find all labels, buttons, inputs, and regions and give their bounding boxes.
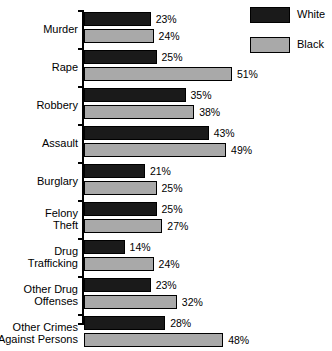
bar-row-white: 14% [84,240,332,254]
bar-white [84,50,157,64]
bar-row-black: 38% [84,105,332,119]
bar-row-white: 25% [84,50,332,64]
bar-row-white: 43% [84,126,332,140]
bar-black [84,143,226,157]
bar-value-white: 43% [214,128,235,139]
group-bars: 23% 24% [84,12,332,46]
bar-value-white: 23% [156,280,177,291]
bar-black [84,219,162,233]
category-label: Other Drug Offenses [0,283,78,307]
group-bars: 35% 38% [84,88,332,122]
bar-black [84,67,232,81]
bar-value-black: 49% [231,145,252,156]
category-label: Drug Trafficking [0,245,78,269]
category-label: Burglary [0,175,78,187]
bar-white [84,88,186,102]
bar-white [84,164,145,178]
bar-row-black: 48% [84,333,332,347]
bar-row-black: 24% [84,257,332,271]
bar-value-white: 28% [170,318,191,329]
bar-value-black: 51% [237,69,258,80]
bar-black [84,257,154,271]
bar-row-black: 32% [84,295,332,309]
group-bars: 23% 32% [84,278,332,312]
bar-value-white: 21% [150,166,171,177]
bar-row-white: 35% [84,88,332,102]
group-bars: 14% 24% [84,240,332,274]
bar-row-black: 27% [84,219,332,233]
bar-white [84,202,157,216]
bar-black [84,105,194,119]
bar-black [84,295,177,309]
bar-black [84,29,154,43]
bar-value-black: 48% [228,335,249,346]
category-label: Felony Theft [0,207,78,231]
bar-white [84,240,125,254]
bar-white [84,126,209,140]
bar-value-white: 14% [130,242,151,253]
bar-row-white: 25% [84,202,332,216]
bar-value-black: 24% [159,259,180,270]
category-label: Robbery [0,99,78,111]
bar-value-white: 25% [162,204,183,215]
bar-value-white: 23% [156,14,177,25]
bar-value-white: 25% [162,52,183,63]
bar-group: Rape 25% 51% [0,50,332,84]
bar-group: Other Crimes Against Persons 28% 48% [0,316,332,350]
bar-group: Robbery 35% 38% [0,88,332,122]
bar-value-black: 38% [199,107,220,118]
bar-row-white: 23% [84,12,332,26]
group-bars: 25% 27% [84,202,332,236]
bar-value-black: 24% [159,31,180,42]
bar-groups: Murder 23% 24% Rape [0,12,332,351]
bar-row-black: 25% [84,181,332,195]
bar-white [84,12,151,26]
bar-group: Assault 43% 49% [0,126,332,160]
bar-value-black: 32% [182,297,203,308]
bar-group: Drug Trafficking 14% 24% [0,240,332,274]
group-bars: 28% 48% [84,316,332,350]
group-bars: 25% 51% [84,50,332,84]
category-label: Other Crimes Against Persons [0,321,78,345]
group-bars: 43% 49% [84,126,332,160]
bar-row-black: 24% [84,29,332,43]
bar-value-black: 27% [167,221,188,232]
bar-row-white: 23% [84,278,332,292]
category-label: Murder [0,23,78,35]
group-bars: 21% 25% [84,164,332,198]
bar-group: Burglary 21% 25% [0,164,332,198]
bar-row-black: 49% [84,143,332,157]
plot-area: Murder 23% 24% Rape [0,12,332,332]
bar-row-white: 28% [84,316,332,330]
bar-row-black: 51% [84,67,332,81]
bar-group: Murder 23% 24% [0,12,332,46]
bar-value-black: 25% [162,183,183,194]
bar-white [84,316,165,330]
bar-group: Other Drug Offenses 23% 32% [0,278,332,312]
bar-row-white: 21% [84,164,332,178]
bar-group: Felony Theft 25% 27% [0,202,332,236]
bar-value-white: 35% [191,90,212,101]
bar-white [84,278,151,292]
bar-black [84,333,223,347]
category-label: Rape [0,61,78,73]
bar-black [84,181,157,195]
category-label: Assault [0,137,78,149]
